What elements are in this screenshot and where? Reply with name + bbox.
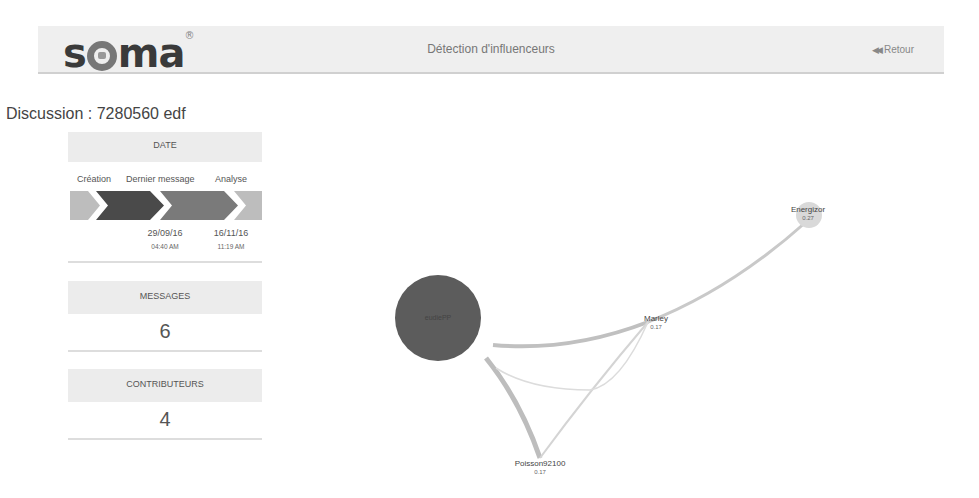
- node-score-energizor: 0.27: [802, 215, 814, 221]
- node-score-poisson92100: 0.17: [534, 469, 546, 475]
- node-label-poisson92100: Poisson92100: [515, 459, 566, 468]
- edge-eudiepp-poisson[interactable]: [486, 358, 540, 458]
- node-eudiepp[interactable]: eudiePP: [395, 275, 481, 361]
- edge-marley-energizor[interactable]: [648, 222, 806, 322]
- influencer-graph[interactable]: eudiePP Energizor 0.27 Marley 0.17 Poiss…: [0, 0, 979, 498]
- node-marley[interactable]: Marley 0.17: [644, 314, 668, 330]
- edge-eudiepp-marley[interactable]: [493, 322, 648, 346]
- node-label-energizor: Energizor: [791, 205, 826, 214]
- node-energizor[interactable]: Energizor 0.27: [791, 202, 826, 228]
- edge-poisson-marley[interactable]: [540, 322, 648, 458]
- node-label-marley: Marley: [644, 314, 668, 323]
- node-label-eudiepp: eudiePP: [425, 314, 452, 321]
- node-poisson92100[interactable]: Poisson92100 0.17: [515, 459, 566, 475]
- node-score-marley: 0.17: [650, 324, 662, 330]
- edge-eudiepp-marley-thin[interactable]: [496, 322, 648, 390]
